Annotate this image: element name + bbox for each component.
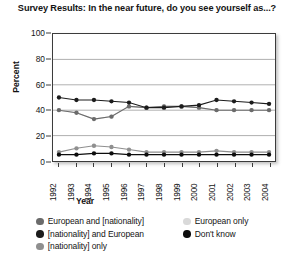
legend-item-label: [nationality] and European <box>48 229 144 239</box>
data-point <box>74 98 78 102</box>
data-point <box>232 152 236 156</box>
data-point <box>232 99 236 103</box>
x-axis-tick-mark <box>58 163 59 167</box>
x-axis-tick-2001: 2001 <box>208 189 217 201</box>
x-axis-tick-mark <box>199 163 200 167</box>
data-point <box>179 152 183 156</box>
legend-column-left: European and [nationality][nationality] … <box>36 215 144 253</box>
x-axis-tick-mark <box>235 163 236 167</box>
legend-marker-icon <box>36 230 44 238</box>
data-point <box>197 152 201 156</box>
data-point <box>92 117 96 121</box>
data-point <box>144 105 148 109</box>
data-point <box>249 152 253 156</box>
x-axis-tick-mark <box>217 163 218 167</box>
y-axis-tick-0: 0 <box>0 157 45 167</box>
y-axis-tick-100: 100 <box>0 28 45 38</box>
data-point <box>197 103 201 107</box>
data-point <box>214 98 218 102</box>
legend-item[interactable]: European and [nationality] <box>36 215 144 228</box>
data-point <box>162 105 166 109</box>
data-point <box>92 151 96 155</box>
y-axis-tick-40: 40 <box>0 105 45 115</box>
legend-marker-icon <box>183 230 191 238</box>
x-axis-tick-2000: 2000 <box>190 189 199 201</box>
x-axis-tick-1998: 1998 <box>155 189 164 201</box>
data-point <box>109 114 113 118</box>
data-point <box>179 104 183 108</box>
x-axis-tick-mark <box>164 163 165 167</box>
data-point <box>214 149 218 153</box>
y-axis-tick-80: 80 <box>0 54 45 64</box>
x-axis-tick-2002: 2002 <box>226 189 235 201</box>
data-point <box>144 152 148 156</box>
x-axis-tick-mark <box>76 163 77 167</box>
y-axis-tick-mark <box>46 162 51 163</box>
data-point <box>92 144 96 148</box>
data-point <box>162 152 166 156</box>
data-point <box>57 108 61 112</box>
y-axis-tick-mark <box>46 58 51 59</box>
data-point <box>267 152 271 156</box>
x-axis-tick-mark <box>111 163 112 167</box>
data-point <box>74 152 78 156</box>
x-axis-tick-mark <box>146 163 147 167</box>
data-point <box>214 152 218 156</box>
x-axis-tick-1999: 1999 <box>173 189 182 201</box>
x-axis-tick-2003: 2003 <box>243 189 252 201</box>
x-axis-tick-mark <box>182 163 183 167</box>
legend-marker-icon <box>36 218 44 226</box>
x-axis-tick-2004: 2004 <box>261 189 270 201</box>
legend-item[interactable]: [nationality] and European <box>36 228 144 241</box>
data-point <box>127 147 131 151</box>
data-point <box>92 98 96 102</box>
data-point <box>109 99 113 103</box>
legend-item-label: European and [nationality] <box>48 216 144 226</box>
legend-item[interactable]: European only <box>183 215 248 228</box>
data-point <box>249 108 253 112</box>
data-point <box>74 146 78 150</box>
legend-item[interactable]: Don't know <box>183 228 248 241</box>
data-point <box>249 100 253 104</box>
y-axis-tick-mark <box>46 84 51 85</box>
chart-legend: European and [nationality][nationality] … <box>36 215 288 255</box>
data-point <box>267 108 271 112</box>
data-point <box>57 95 61 99</box>
x-axis-tick-mark <box>129 163 130 167</box>
data-point <box>109 151 113 155</box>
data-point <box>109 145 113 149</box>
legend-item[interactable]: [nationality] only <box>36 240 144 253</box>
data-series-layer <box>53 34 275 161</box>
x-axis-tick-mark <box>270 163 271 167</box>
data-point <box>57 152 61 156</box>
x-axis-tick-mark <box>252 163 253 167</box>
chart-title: Survey Results: In the near future, do y… <box>14 3 280 15</box>
data-point <box>232 108 236 112</box>
x-axis-tick-1996: 1996 <box>120 189 129 201</box>
legend-marker-icon <box>183 218 191 226</box>
plot-area <box>52 33 276 162</box>
legend-marker-icon <box>36 243 44 251</box>
data-point <box>214 108 218 112</box>
data-point <box>267 102 271 106</box>
y-axis-tick-mark <box>46 110 51 111</box>
x-axis-title: Year <box>52 196 118 206</box>
x-axis-tick-labels: 1992199319941995199619971998199920002001… <box>52 163 276 197</box>
chart-figure: Survey Results: In the near future, do y… <box>0 0 294 258</box>
legend-item-label: Don't know <box>195 229 236 239</box>
legend-item-label: European only <box>195 216 249 226</box>
data-point <box>127 104 131 108</box>
series-1 <box>57 95 271 109</box>
data-point <box>74 111 78 115</box>
legend-item-label: [nationality] only <box>48 241 107 251</box>
y-axis-tick-20: 20 <box>0 131 45 141</box>
legend-column-right: European onlyDon't know <box>183 215 248 240</box>
y-axis-tick-mark <box>46 33 51 34</box>
data-point <box>127 100 131 104</box>
y-axis-tick-mark <box>46 136 51 137</box>
x-axis-tick-mark <box>93 163 94 167</box>
x-axis-tick-1997: 1997 <box>137 189 146 201</box>
data-point <box>127 152 131 156</box>
y-axis-tick-60: 60 <box>0 80 45 90</box>
